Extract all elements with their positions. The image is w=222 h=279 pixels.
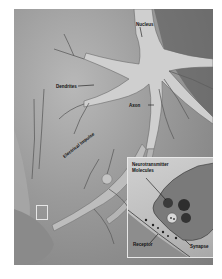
label-synapse: Synapse <box>190 244 209 249</box>
label-axon: Axon <box>129 103 140 108</box>
label-neurotransmitter: Neurotransmitter <box>132 162 169 167</box>
label-molecules: Molecules <box>132 168 154 173</box>
label-receptor: Receptor <box>133 242 153 247</box>
label-dendrites: Dendrites <box>56 84 77 89</box>
highlight-box <box>36 205 48 220</box>
synapse-inset: Neurotransmitter Molecules Receptor Syna… <box>127 157 213 258</box>
neuron-illustration: Nucleus Dendrites Axon Electrical Impuls… <box>14 9 213 265</box>
label-nucleus: Nucleus <box>136 22 154 27</box>
